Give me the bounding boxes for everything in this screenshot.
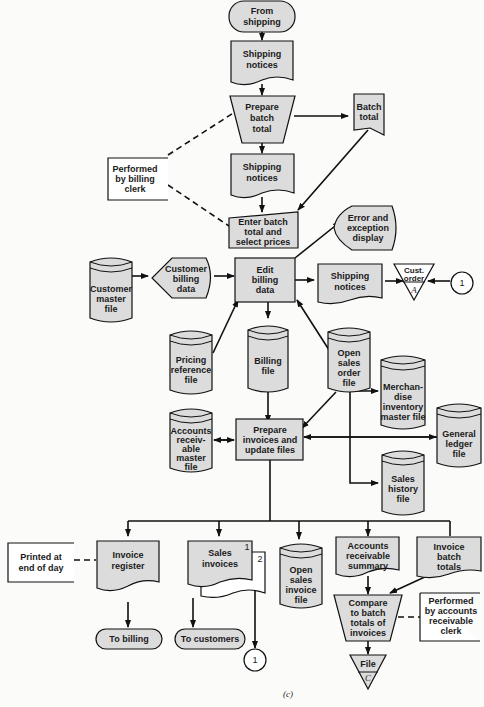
svg-text:Enter batch: Enter batch — [238, 217, 288, 227]
figure-caption: (c) — [283, 689, 293, 699]
svg-text:end of day: end of day — [18, 563, 63, 573]
svg-text:file: file — [342, 378, 355, 388]
svg-text:Sales: Sales — [208, 548, 232, 558]
svg-text:Compare: Compare — [348, 598, 387, 608]
svg-text:Pricing: Pricing — [176, 355, 207, 365]
svg-text:Customer: Customer — [165, 264, 208, 274]
edit-billing-data-process: Edit billing data — [235, 258, 295, 302]
svg-text:1: 1 — [459, 278, 464, 288]
svg-text:receivable: receivable — [346, 551, 390, 561]
svg-text:To customers: To customers — [181, 634, 239, 644]
svg-text:shipping: shipping — [243, 17, 281, 27]
svg-text:Open: Open — [337, 348, 360, 358]
svg-text:Open: Open — [289, 565, 312, 575]
compare-batch-totals-manual-operation: Compare to batch totals of invoices — [334, 595, 402, 641]
svg-text:Shipping: Shipping — [331, 271, 370, 281]
svg-text:1: 1 — [244, 542, 249, 552]
to-customers-terminal: To customers — [175, 629, 245, 649]
shipping-notices-document-3: Shipping notices — [318, 264, 382, 304]
svg-text:by accounts: by accounts — [425, 606, 478, 616]
svg-text:Performed: Performed — [112, 164, 157, 174]
svg-text:Sales: Sales — [391, 474, 415, 484]
svg-text:inventory: inventory — [383, 402, 424, 412]
accounts-receivable-master-file-disk: Accounts receiv- able master file — [170, 409, 212, 472]
svg-text:Printed at: Printed at — [20, 552, 62, 562]
svg-text:Prepare: Prepare — [245, 102, 279, 112]
svg-text:receivable: receivable — [429, 616, 473, 626]
svg-text:register: register — [111, 561, 145, 571]
svg-text:select prices: select prices — [236, 237, 291, 247]
svg-text:invoice: invoice — [285, 585, 316, 595]
svg-text:totals: totals — [437, 562, 461, 572]
svg-text:total: total — [360, 112, 379, 122]
svg-text:Performed: Performed — [428, 596, 473, 606]
svg-text:invoices: invoices — [350, 628, 386, 638]
accounts-receivable-summary-document: Accounts receivable summary — [336, 537, 399, 577]
svg-text:To billing: To billing — [109, 634, 148, 644]
svg-text:file: file — [184, 375, 197, 385]
svg-text:notices: notices — [246, 60, 278, 70]
svg-text:invoices: invoices — [202, 559, 238, 569]
svg-text:notices: notices — [246, 173, 278, 183]
svg-text:Accounts: Accounts — [347, 541, 388, 551]
svg-text:Error and: Error and — [348, 213, 389, 223]
printed-at-end-of-day-note: Printed at end of day — [8, 543, 74, 582]
merchandise-inventory-file-disk: Merchan- dise inventory master file — [380, 356, 425, 429]
svg-text:totals of: totals of — [351, 618, 387, 628]
to-billing-terminal: To billing — [96, 629, 162, 649]
off-page-connector-1-top: 1 — [451, 272, 473, 294]
svg-text:sales: sales — [338, 358, 361, 368]
invoice-register-document: Invoice register — [97, 541, 159, 591]
prepare-invoices-process: Prepare invoices and update files — [236, 419, 303, 460]
customer-master-file-disk: Customer master file — [90, 258, 133, 322]
svg-text:order: order — [404, 274, 424, 283]
svg-text:exception: exception — [347, 223, 389, 233]
svg-text:Shipping: Shipping — [243, 49, 282, 59]
svg-text:update files: update files — [245, 445, 295, 455]
svg-text:batch: batch — [437, 552, 461, 562]
svg-text:2: 2 — [257, 554, 262, 564]
svg-text:Batch: Batch — [356, 102, 381, 112]
flowchart-diagram: From shipping Shipping notices Prepare b… — [0, 0, 484, 707]
general-ledger-file-disk: General ledger file — [437, 404, 481, 467]
prepare-batch-total-manual-operation: Prepare batch total — [230, 96, 295, 143]
from-shipping-terminal: From shipping — [229, 1, 295, 32]
billing-file-disk: Billing file — [248, 326, 288, 392]
svg-text:total and: total and — [244, 227, 282, 237]
svg-text:Billing: Billing — [254, 356, 282, 366]
svg-text:A: A — [410, 285, 417, 295]
svg-text:General: General — [442, 429, 476, 439]
svg-text:1: 1 — [252, 655, 257, 665]
svg-text:by billing: by billing — [115, 174, 155, 184]
pricing-reference-file-disk: Pricing reference file — [170, 331, 212, 394]
svg-text:file: file — [184, 462, 197, 472]
svg-text:Customer: Customer — [90, 284, 133, 294]
cust-order-file-offline-storage: Cust. order A — [394, 264, 434, 300]
svg-text:Edit: Edit — [257, 265, 274, 275]
svg-text:file: file — [261, 366, 274, 376]
svg-text:to batch: to batch — [351, 608, 386, 618]
svg-text:master file: master file — [380, 412, 425, 422]
svg-text:reference: reference — [171, 365, 212, 375]
svg-text:master: master — [96, 294, 126, 304]
svg-text:clerk: clerk — [440, 626, 462, 636]
customer-billing-data-display: Customer billing data — [152, 258, 211, 298]
sales-history-file-disk: Sales history file — [382, 451, 424, 515]
svg-text:summary: summary — [348, 561, 388, 571]
svg-text:file: file — [294, 595, 307, 605]
svg-text:order: order — [337, 368, 361, 378]
svg-text:total: total — [253, 124, 272, 134]
svg-text:Prepare: Prepare — [253, 425, 287, 435]
open-sales-order-file-disk: Open sales order file — [328, 328, 370, 392]
svg-text:file: file — [452, 449, 465, 459]
batch-total-document: Batch total — [354, 94, 384, 135]
svg-text:Shipping: Shipping — [243, 162, 282, 172]
svg-text:data: data — [256, 285, 276, 295]
error-exception-display: Error and exception display — [334, 206, 396, 250]
svg-text:data: data — [177, 284, 197, 294]
svg-text:batch: batch — [250, 113, 274, 123]
svg-text:notices: notices — [334, 282, 366, 292]
sales-invoices-multipart-document: 1 2 Sales invoices — [188, 541, 265, 597]
open-sales-invoice-file-disk: Open sales invoice file — [280, 544, 322, 608]
svg-text:billing: billing — [173, 274, 200, 284]
